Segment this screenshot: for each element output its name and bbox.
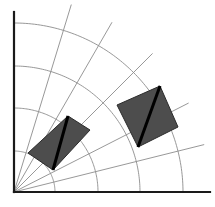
figure-container	[0, 0, 215, 207]
plot-background	[0, 0, 215, 207]
polar-plot-canvas	[0, 0, 215, 207]
